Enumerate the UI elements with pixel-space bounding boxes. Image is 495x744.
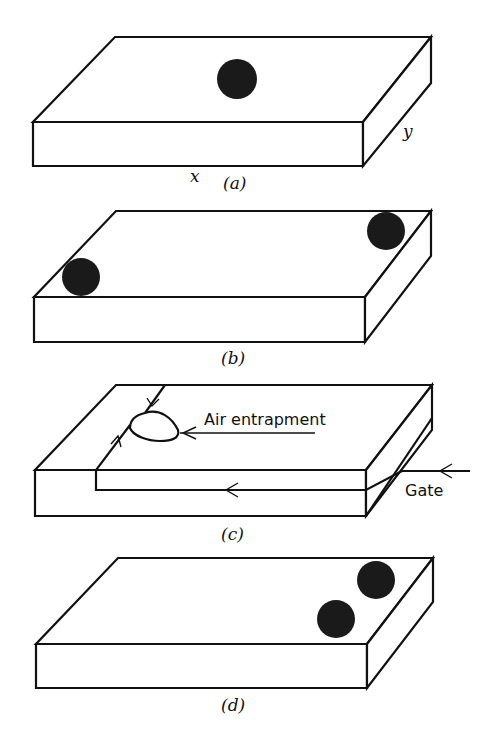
panel-label-b: (b) [221,348,245,368]
gate-dot-icon [62,258,100,296]
panel-b: (b) [34,211,431,368]
gate-dot-icon [217,59,257,99]
plate-c-front [35,470,366,516]
axis-y-label: y [402,121,413,141]
panel-d: (d) [36,558,433,715]
gate-dot-icon [367,212,405,250]
plate-a-front [33,122,363,166]
plate-d-front [36,644,367,688]
panel-label-c: (c) [221,524,244,544]
panel-c: Air entrapment Gate (c) [35,385,470,544]
axis-x-label: x [190,166,200,186]
gate-dot-icon [357,561,395,599]
panel-label-d: (d) [221,695,245,715]
panel-a: x y (a) [33,37,431,193]
figure-canvas: x y (a) (b) Air entrapment Gate [0,0,495,744]
air-entrapment-label: Air entrapment [204,410,326,429]
gate-label: Gate [405,481,443,500]
plate-b-front [34,297,365,342]
panel-label-a: (a) [223,173,246,193]
gate-dot-icon [317,600,355,638]
